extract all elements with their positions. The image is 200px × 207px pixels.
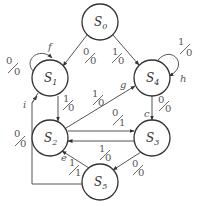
svg-text:0: 0	[165, 103, 171, 114]
label-s5-s2: 1 1 e	[61, 152, 81, 178]
svg-text:0: 0	[118, 55, 124, 66]
label-s2-s4: 1 0 g	[92, 79, 126, 108]
svg-text:i: i	[23, 99, 26, 110]
label-s3-s5: 0 0	[132, 158, 144, 178]
svg-text:0: 0	[68, 102, 74, 113]
label-s2-s3: 0 1	[112, 107, 125, 128]
svg-text:0: 0	[98, 97, 104, 108]
label-s0-s4: 1 0	[112, 46, 124, 66]
svg-text:g: g	[120, 79, 126, 90]
svg-text:0: 0	[83, 46, 89, 57]
state-s0: S0	[82, 4, 118, 40]
svg-text:0: 0	[138, 167, 144, 178]
edge-s5-s1-tip	[32, 93, 38, 103]
svg-text:0: 0	[105, 152, 111, 163]
svg-text:c: c	[144, 108, 150, 119]
label-s1-s2: 1 0	[63, 93, 74, 113]
state-s1: S1	[32, 60, 68, 96]
svg-text:1: 1	[178, 36, 184, 47]
svg-text:e: e	[61, 152, 67, 163]
svg-text:0: 0	[14, 66, 20, 77]
svg-text:h: h	[180, 73, 186, 84]
svg-text:0: 0	[158, 94, 164, 105]
svg-text:0: 0	[186, 47, 192, 58]
state-s2: S2	[32, 120, 68, 156]
label-s5-s1: 0 0 i	[14, 99, 26, 149]
svg-text:0: 0	[6, 55, 12, 66]
svg-text:1: 1	[119, 117, 125, 128]
svg-text:1: 1	[75, 167, 81, 178]
svg-text:f: f	[47, 41, 54, 52]
label-s4-s3: 0 0 c	[144, 94, 171, 119]
state-s3: S3	[134, 120, 170, 156]
label-s4-loop: 1 0 h	[178, 36, 192, 84]
svg-text:0: 0	[20, 138, 26, 149]
state-diagram: S0 S1 S4 S2 S3 S5 0 0 f 0 0 1 0 1	[0, 0, 200, 207]
svg-text:0: 0	[90, 55, 96, 66]
label-s0-s1: 0 0	[83, 46, 96, 66]
label-s3-s2: 1 0	[99, 143, 111, 163]
svg-text:0: 0	[112, 107, 118, 118]
state-s5: S5	[82, 164, 118, 200]
state-s4: S4	[134, 60, 170, 96]
